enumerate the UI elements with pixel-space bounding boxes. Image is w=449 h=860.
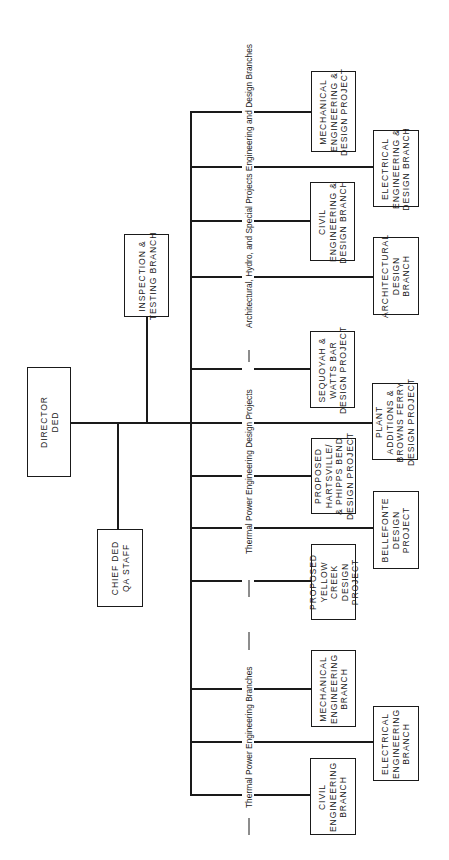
chief-qa-staff-label: CHIEF DED QA STAFF [110,541,131,595]
unit-label: CIVIL ENGINEERING & DESIGN BRANCH [317,180,349,263]
group-label-thermal-projects: Thermal Power Engineering Design Project… [244,385,254,558]
inspection-testing-box: INSPECTION & TESTING BRANCH [124,234,169,317]
unit-mechanical-eng-branch: MECHANICAL ENGINEERING BRANCH [311,650,356,727]
unit-label: ELECTRICAL ENGINEERING BRANCH [380,708,412,778]
unit-civil-eng-branch: CIVIL ENGINEERING BRANCH [310,758,356,835]
unit-label: CIVIL ENGINEERING BRANCH [317,761,349,831]
unit-label: MECHANICAL ENGINEERING BRANCH [318,653,350,723]
unit-sequoyah-watts-bar: SEQUOYAH & WATTS BAR DESIGN PROJECT [310,331,355,408]
unit-architectural-design-branch: ARCHITECTURAL DESIGN BRANCH [373,237,419,315]
unit-plant-additions-browns-ferry: PLANT ADDITIONS & BROWNS FERRY DESIGN PR… [372,383,418,460]
unit-label: PROPOSED YELLOW CREEK DESIGN PROJECT [307,554,360,610]
unit-electrical-eng-branch: ELECTRICAL ENGINEERING BRANCH [373,706,419,781]
group-label-thermal-branches: Thermal Power Engineering Branches [244,662,254,812]
unit-mechanical-eng-design-project: MECHANICAL ENGINEERING & DESIGN PROJECT [311,71,356,152]
unit-label: PROPOSED HARTSVILLE/ & PHIPPS BEND DESIG… [313,432,355,520]
inspection-testing-label: INSPECTION & TESTING BRANCH [136,231,157,320]
unit-label: ARCHITECTURAL DESIGN BRANCH [380,234,412,318]
group-label-architectural-hydro: Architectural, Hydro, and Special Projec… [244,40,254,332]
director-box: DIRECTOR DED [27,367,71,477]
director-label: DIRECTOR DED [39,396,60,448]
unit-label: PLANT ADDITIONS & BROWNS FERRY DESIGN PR… [374,377,416,465]
unit-civil-eng-design-branch: CIVIL ENGINEERING & DESIGN BRANCH [310,182,355,261]
unit-label: ELECTRICAL ENGINEERING & DESIGN BRANCH [380,127,412,210]
unit-bellefonte: BELLEFONTE DESIGN PROJECT [373,491,419,569]
unit-yellow-creek: PROPOSED YELLOW CREEK DESIGN PROJECT [311,544,356,620]
unit-electrical-eng-design-branch: ELECTRICAL ENGINEERING & DESIGN BRANCH [373,130,419,207]
unit-label: SEQUOYAH & WATTS BAR DESIGN PROJECT [317,325,349,413]
unit-label: MECHANICAL ENGINEERING & DESIGN PROJECT [318,67,350,155]
chief-qa-staff-box: CHIEF DED QA STAFF [97,529,143,607]
unit-hartsville-phipps-bend: PROPOSED HARTSVILLE/ & PHIPPS BEND DESIG… [311,438,356,514]
org-chart: DIRECTOR DED CHIEF DED QA STAFF INSPECTI… [0,0,449,860]
unit-label: BELLEFONTE DESIGN PROJECT [380,498,412,563]
